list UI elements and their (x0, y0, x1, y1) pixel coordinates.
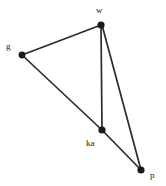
graph-svg-surface (0, 0, 166, 186)
node-label-g: g (6, 42, 11, 51)
node-label-ka: ka (86, 139, 95, 148)
graph-edge-w-ka (101, 25, 102, 130)
graph-edge-g-ka (22, 55, 102, 130)
graph-node-w (97, 21, 104, 28)
graph-diagram: gwkap (0, 0, 166, 186)
node-layer (19, 21, 145, 173)
node-label-p: p (150, 171, 155, 180)
node-label-w: w (96, 6, 103, 15)
graph-edge-g-w (22, 25, 101, 55)
graph-edge-w-p (102, 25, 141, 170)
graph-node-ka (98, 126, 105, 133)
graph-node-g (19, 52, 26, 59)
graph-node-p (137, 166, 144, 173)
edge-layer (22, 25, 141, 170)
